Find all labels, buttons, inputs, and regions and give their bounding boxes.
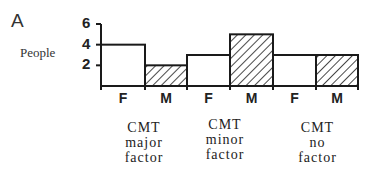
x-tick-label: M (144, 90, 188, 106)
x-tick-label: F (273, 90, 317, 106)
x-tick-label: F (101, 90, 145, 106)
group-label: CMTmajorfactor (104, 120, 184, 165)
y-tick-label: 2 (82, 55, 90, 72)
x-tick-label: M (230, 90, 274, 106)
bar-f-2 (187, 55, 230, 86)
group-label: CMTnofactor (278, 120, 358, 165)
y-tick-label: 6 (82, 14, 90, 31)
x-tick-label: M (315, 90, 359, 106)
bar-m-2 (230, 34, 273, 86)
x-tick-label: F (187, 90, 231, 106)
bar-f-1 (101, 45, 145, 86)
bars (101, 34, 358, 86)
group-label: CMTminorfactor (185, 117, 265, 162)
bar-m-1 (145, 65, 187, 86)
bar-f-3 (273, 55, 316, 86)
y-tick-label: 4 (82, 35, 90, 52)
bar-m-3 (316, 55, 358, 86)
